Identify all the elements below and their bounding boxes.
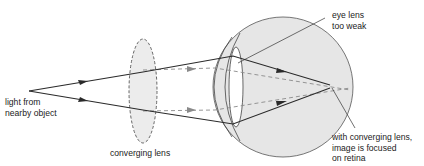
converging-lens-label-text: converging lens: [110, 148, 170, 158]
object-label-line-1: light from: [5, 97, 57, 108]
focus-label-line-3: on retina: [332, 153, 412, 164]
object-label-line-2: nearby object: [5, 108, 57, 119]
eye-lens: [229, 47, 243, 127]
long-sight-correction-diagram: light from nearby object converging lens…: [0, 0, 424, 166]
eye-lens-label-line-1: eye lens: [332, 10, 366, 21]
converging-lens-label: converging lens: [110, 148, 170, 159]
eye-lens-label-line-2: too weak: [332, 21, 366, 32]
dashed-ray-arrows: [187, 66, 196, 113]
converging-lens: [129, 39, 157, 143]
eye-lens-label: eye lens too weak: [332, 10, 366, 31]
focus-label-line-1: with converging lens,: [332, 132, 412, 143]
object-label: light from nearby object: [5, 97, 57, 118]
focus-label-line-2: image is focused: [332, 143, 412, 154]
focus-label: with converging lens, image is focused o…: [332, 132, 412, 164]
